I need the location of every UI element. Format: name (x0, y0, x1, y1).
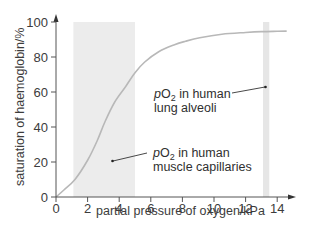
annotation-muscle-dot (111, 160, 114, 163)
x-tick-label: 0 (52, 201, 59, 216)
y-axis-arrow-icon (54, 14, 59, 22)
y-tick-label: 60 (34, 85, 48, 100)
x-axis-arrow-icon (288, 195, 296, 200)
y-tick-label: 0 (41, 190, 48, 205)
annotation-muscle-line2: muscle capillaries (153, 160, 252, 174)
y-tick-label: 20 (34, 155, 48, 170)
y-axis-title: saturation of haemoglobin/% (13, 28, 27, 186)
x-tick-label: 2 (84, 201, 91, 216)
muscle-capillaries-band (73, 22, 135, 197)
y-tick-label: 100 (26, 15, 48, 30)
y-tick-label: 80 (34, 50, 48, 65)
annotation-lung-line2: lung alveoli (154, 101, 217, 115)
y-tick-label: 40 (34, 120, 48, 135)
x-tick-label: 14 (270, 201, 284, 216)
x-axis-title: partial pressure of oxygen/kPa (96, 204, 265, 218)
oxygen-dissociation-chart: 020406080100 02468101214 partial pressur… (0, 0, 309, 242)
lung-alveoli-band (263, 22, 269, 197)
annotation-lung-alveoli: pO2 in human lung alveoli (153, 86, 267, 115)
y-axis-ticks: 020406080100 (26, 15, 56, 205)
annotation-lung-leader-line (232, 87, 265, 93)
annotation-lung-dot (264, 86, 267, 89)
